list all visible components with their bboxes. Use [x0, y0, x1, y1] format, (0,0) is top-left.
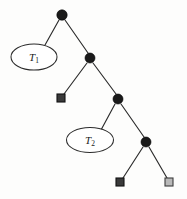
- tree-node-3: [113, 94, 123, 104]
- edge-node3-to-subtree-t2: [101, 104, 115, 130]
- edge-node2-to-leaf1: [64, 63, 87, 94]
- subtree-label-t2-sub: 2: [91, 139, 95, 148]
- tree-node-root: [57, 10, 67, 20]
- leaf-node-filled-1: [57, 94, 65, 102]
- edge-root-to-node2: [65, 20, 88, 53]
- edge-node4-to-leaf3: [149, 147, 167, 178]
- tree-node-4: [141, 137, 151, 147]
- leaf-node-filled-2: [116, 178, 124, 186]
- edge-node4-to-leaf2: [123, 147, 143, 178]
- edge-root-to-subtree-t1: [45, 20, 59, 45]
- tree-diagram-canvas: T1 T2: [0, 0, 187, 199]
- edge-node3-to-node4: [121, 104, 144, 137]
- subtree-label-t1-sub: 1: [35, 56, 39, 65]
- tree-diagram: T1 T2: [0, 0, 187, 199]
- leaf-node-open-3: [165, 178, 173, 186]
- tree-node-2: [85, 53, 95, 63]
- edge-node2-to-node3: [93, 63, 116, 94]
